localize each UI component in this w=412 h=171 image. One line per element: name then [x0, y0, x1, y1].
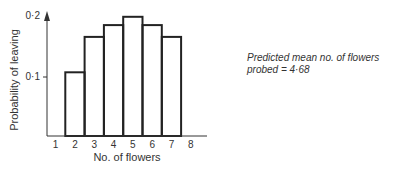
x-tick-label-7: 7: [169, 139, 175, 150]
y-axis-title: Probability of leaving: [8, 29, 20, 131]
bar-4: [104, 25, 123, 136]
bars: [65, 17, 181, 136]
predicted-mean-annotation: Predicted mean no. of flowers probed = 4…: [247, 52, 379, 76]
annotation-line-2: probed = 4·68: [247, 64, 379, 76]
bar-3: [85, 37, 104, 136]
annotation-line-1: Predicted mean no. of flowers: [247, 52, 379, 64]
x-tick-label-1: 1: [53, 139, 59, 150]
x-tick-label-3: 3: [92, 139, 98, 150]
x-tick-label-8: 8: [188, 139, 194, 150]
bar-7: [162, 37, 181, 136]
x-tick-label-5: 5: [130, 139, 136, 150]
x-axis-title: No. of flowers: [93, 151, 161, 163]
y-axis-arrow-icon: [44, 11, 50, 21]
bar-6: [143, 25, 162, 136]
x-tick-label-2: 2: [72, 139, 78, 150]
bar-2: [65, 72, 84, 136]
x-tick-label-4: 4: [111, 139, 117, 150]
y-tick-label-0.2: 0·2: [26, 10, 41, 21]
histogram-chart: 0·1 0·2 12345678 No. of flowers Probabil…: [0, 0, 412, 171]
x-tick-labels: 12345678: [53, 139, 194, 150]
bar-5: [123, 17, 142, 136]
y-tick-label-0.1: 0·1: [26, 71, 41, 82]
x-tick-label-6: 6: [149, 139, 155, 150]
